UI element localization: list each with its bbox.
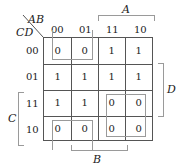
label-b: B (93, 153, 101, 166)
col-header-10: 10 (134, 24, 147, 36)
corner-label-cd: CD (16, 26, 33, 39)
label-d: D (167, 83, 176, 96)
cell-r1-c1: 1 (71, 64, 99, 90)
row-header-11: 11 (26, 98, 39, 110)
corner-label-ab: AB (28, 13, 44, 26)
kmap-grid: 0 0 1 1 1 1 1 1 1 1 0 0 0 0 0 0 (43, 37, 153, 141)
bracket-c (18, 92, 24, 146)
group-top-left-zeros (52, 30, 93, 60)
cell-r1-c0: 1 (44, 64, 72, 90)
bracket-d (158, 63, 164, 117)
row-header-10: 10 (26, 124, 39, 136)
row-header-01: 01 (26, 71, 39, 83)
group-bottom-right-zeros (106, 94, 146, 137)
group-bottom-left-zeros (52, 120, 93, 150)
cell-r1-c3: 1 (125, 64, 153, 90)
cell-r0-c3: 1 (125, 38, 153, 64)
label-c: C (8, 112, 16, 125)
cell-r2-c1: 1 (71, 90, 99, 116)
col-header-11: 11 (106, 24, 119, 36)
row-header-00: 00 (26, 45, 39, 57)
label-a: A (122, 3, 130, 16)
cell-r0-c2: 1 (98, 38, 126, 64)
cell-r1-c2: 1 (98, 64, 126, 90)
cell-r2-c0: 1 (44, 90, 72, 116)
